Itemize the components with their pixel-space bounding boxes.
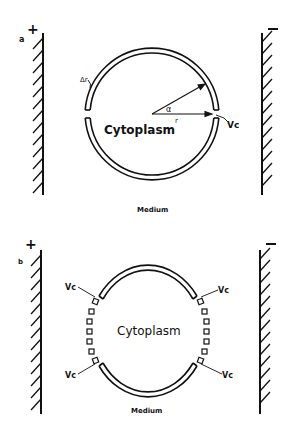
alpha-label: α [166,105,171,114]
plus-sign: + [27,21,39,37]
delta-r-label: Δr [80,76,88,84]
negative-electrode [262,29,278,195]
cytoplasm-label-a: Cytoplasm [104,123,175,137]
positive-electrode [33,33,43,195]
vc-label-top-left: Vc [65,283,76,292]
medium-label-a: Medium [137,206,168,214]
vc-label: Vc [227,120,239,130]
radius-vectors [152,84,212,117]
radius-label: r [175,117,178,125]
panel-a: a + [19,21,278,214]
positive-electrode-b [31,250,41,414]
pores-right [197,298,209,363]
diagram-canvas: a + [0,0,289,438]
negative-electrode-b [260,244,276,414]
panel-b-label: b [18,258,23,266]
pores-left [87,298,99,363]
vc-label-top-right: Vc [218,286,229,295]
panel-a-label: a [19,35,24,44]
vc-label-bottom-right: Vc [222,371,233,380]
delta-r-pointer [88,80,91,88]
medium-label-b: Medium [131,407,162,415]
vc-label-bottom-left: Vc [65,371,76,380]
panel-b: b + [18,236,276,415]
cytoplasm-label-b: Cytoplasm [117,324,181,338]
plus-sign-b: + [25,236,37,252]
